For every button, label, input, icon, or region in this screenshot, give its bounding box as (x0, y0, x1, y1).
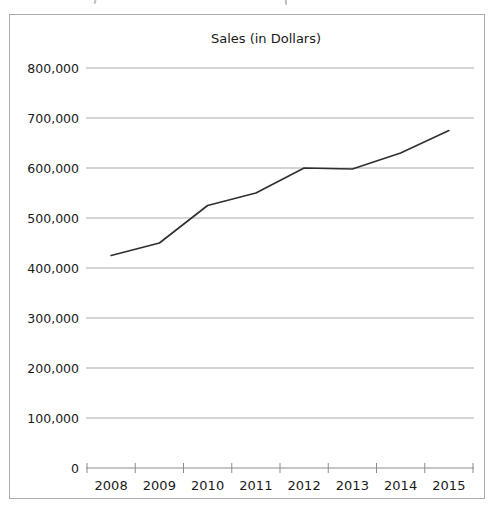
chart-panel: Sales (in Dollars) 800,000700,000600,000… (9, 14, 485, 499)
x-axis-label: 2010 (191, 478, 224, 493)
y-axis-label: 500,000 (27, 211, 79, 226)
cropped-text-descender (285, 0, 288, 5)
cropped-text-descender (94, 0, 97, 4)
y-axis-label: 100,000 (27, 411, 79, 426)
y-axis-label: 200,000 (27, 361, 79, 376)
y-axis-label: 400,000 (27, 261, 79, 276)
y-axis-label: 800,000 (27, 61, 79, 76)
page: Sales (in Dollars) 800,000700,000600,000… (0, 0, 496, 516)
x-axis-label: 2011 (239, 478, 272, 493)
y-axis-label: 600,000 (27, 161, 79, 176)
sales-line-chart: Sales (in Dollars) 800,000700,000600,000… (10, 15, 484, 498)
x-axis-label: 2014 (384, 478, 417, 493)
x-axis-label: 2008 (95, 478, 128, 493)
y-axis-label: 700,000 (27, 111, 79, 126)
x-axis-label: 2012 (288, 478, 321, 493)
chart-title: Sales (in Dollars) (211, 31, 321, 46)
x-axis-label: 2013 (336, 478, 369, 493)
y-axis-label: 0 (71, 461, 79, 476)
y-axis-label: 300,000 (27, 311, 79, 326)
sales-line (111, 131, 449, 256)
x-axis-label: 2009 (143, 478, 176, 493)
x-axis-label: 2015 (432, 478, 465, 493)
